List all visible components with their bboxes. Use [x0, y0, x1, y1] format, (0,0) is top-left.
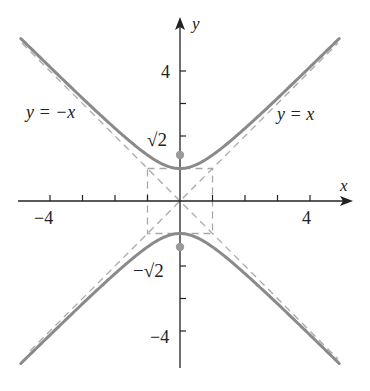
y-tick-label-4: 4	[161, 62, 170, 82]
x-tick-label-4: 4	[302, 208, 311, 228]
asymptote-label-x: y = x	[275, 104, 314, 124]
asymptote-y-equals-x	[30, 43, 338, 351]
focus-label-upper: √2	[147, 129, 167, 150]
y-tick-label-neg4: −4	[150, 327, 169, 347]
asymptote-label-neg-x: y = −x	[24, 102, 75, 122]
x-tick-label-neg4: −4	[34, 208, 53, 228]
x-axis-label: x	[339, 176, 348, 195]
focus-dot-lower	[176, 243, 184, 251]
y-axis-label: y	[190, 14, 200, 33]
focus-dot-upper	[176, 151, 184, 159]
hyperbola-figure: x y −4 4 4 −4 √2 −√2 y = −x y = x	[0, 0, 370, 391]
focus-label-lower: −√2	[133, 260, 164, 281]
